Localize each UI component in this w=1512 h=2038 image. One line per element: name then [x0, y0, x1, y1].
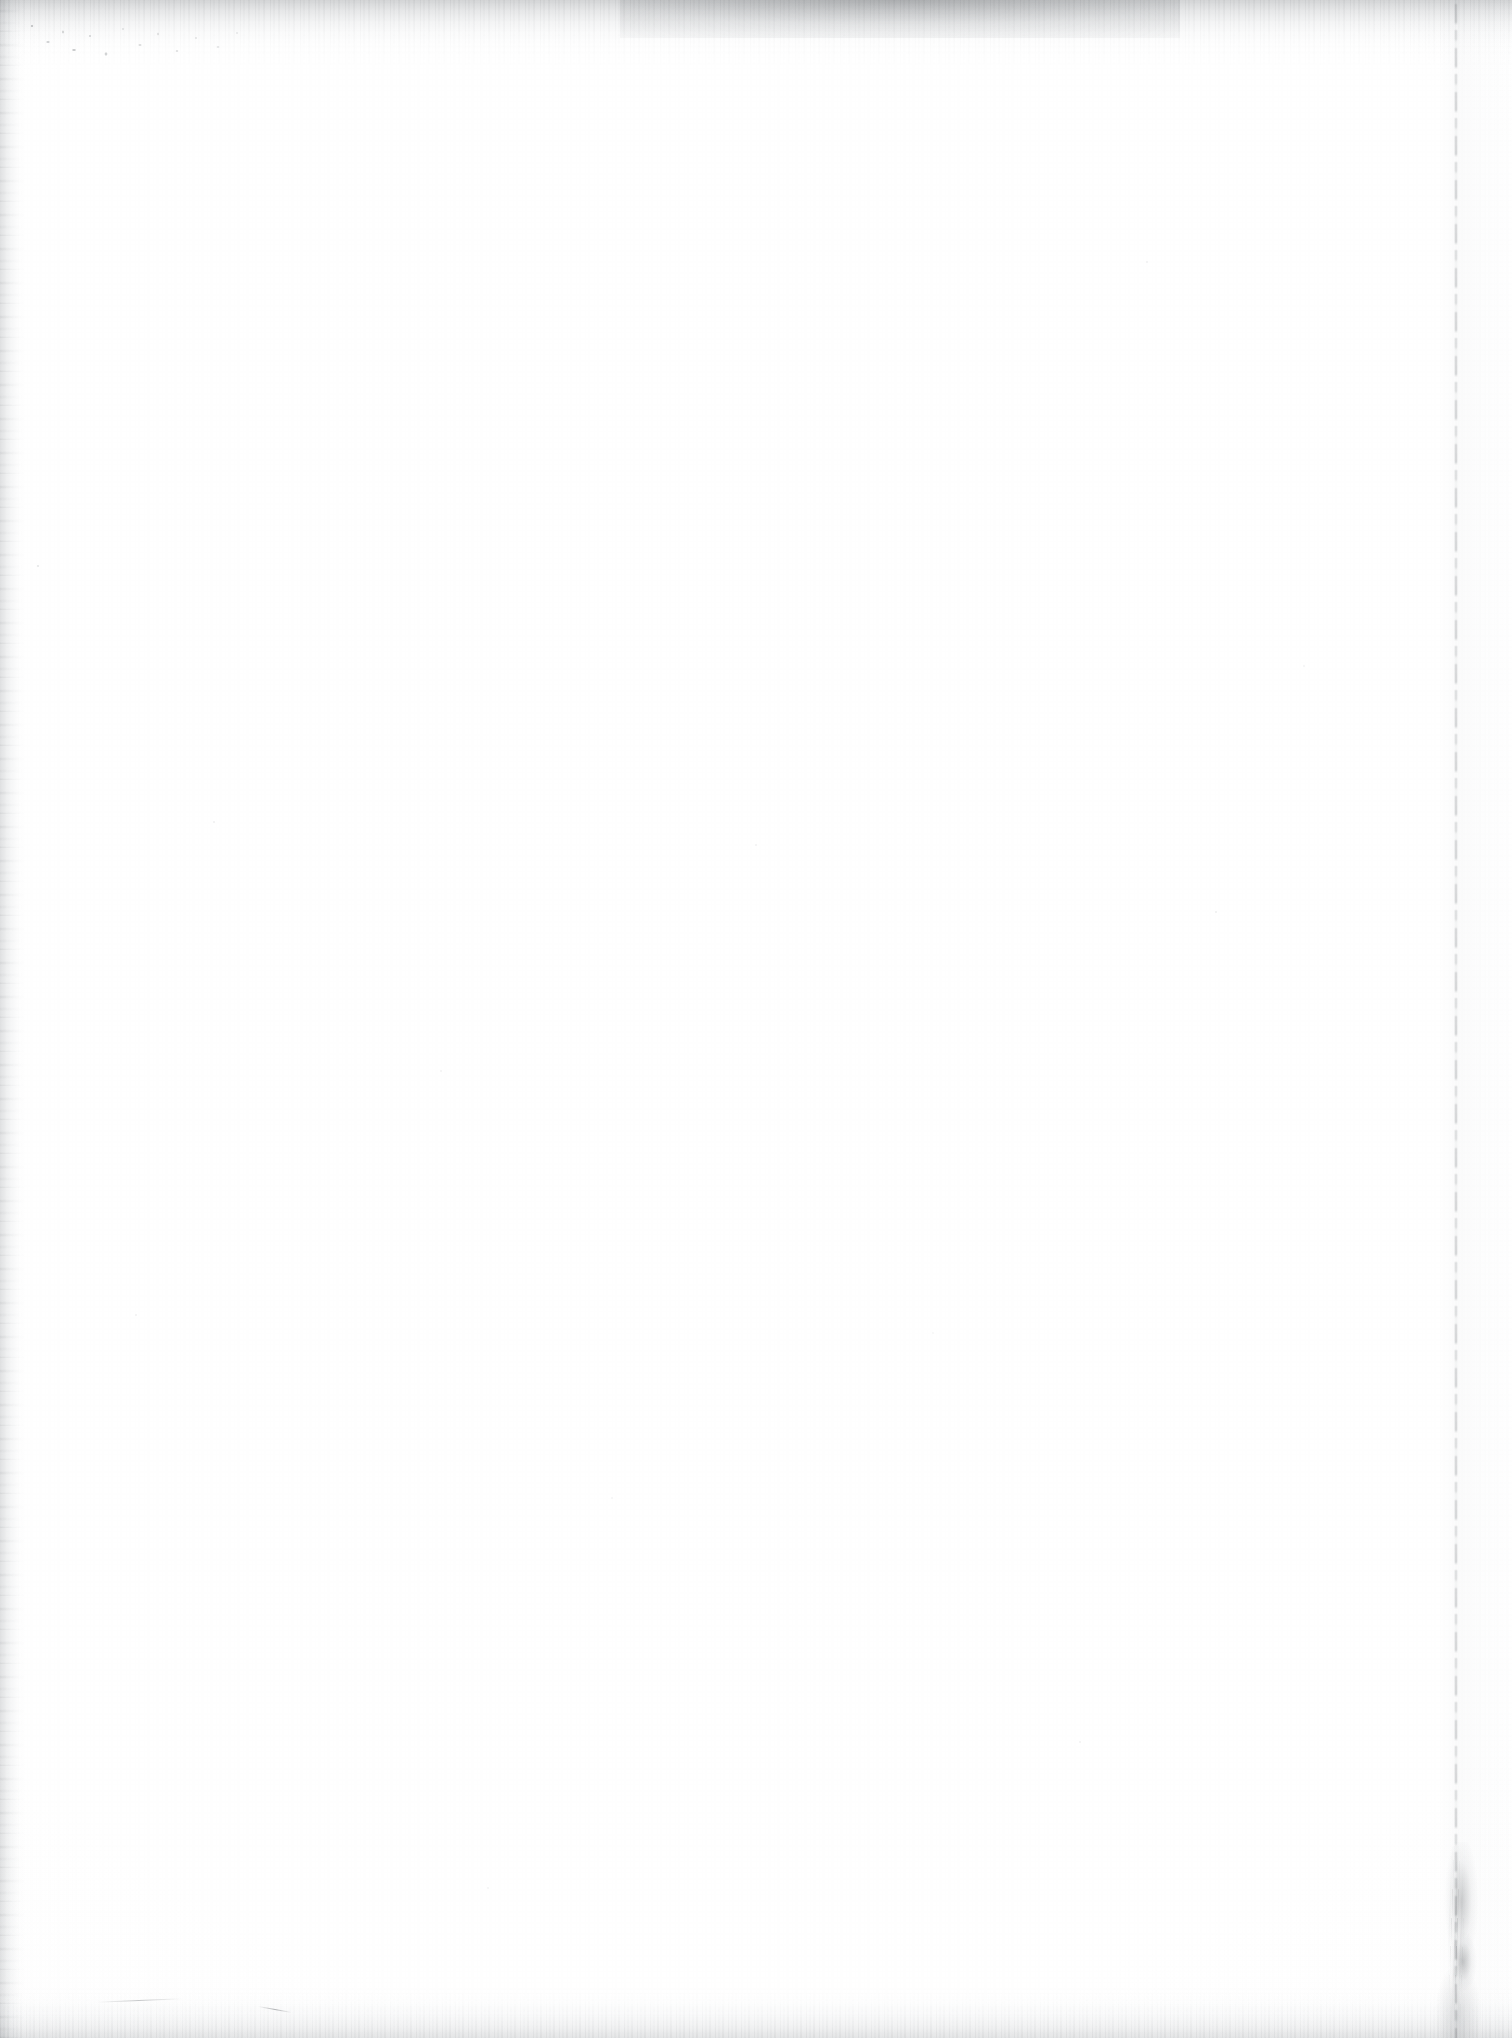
scattered-dust	[0, 0, 1512, 2038]
page-edge-rule	[1454, 0, 1458, 2038]
page-edge-halo	[1440, 0, 1512, 2038]
top-edge-streaks	[0, 0, 1512, 66]
left-edge-streaks	[0, 0, 24, 2038]
top-edge-shadow	[0, 0, 1512, 56]
bottom-edge-streaks	[0, 1992, 1512, 2038]
scuff-hairline-right	[258, 2006, 292, 2013]
fold-crease-streaks	[1448, 1846, 1464, 2036]
top-edge-dark-patch	[620, 0, 1180, 38]
scanned-page	[0, 0, 1512, 2038]
left-edge-shadow	[0, 0, 26, 2038]
dust-speckle-cluster	[22, 14, 252, 76]
paper-background	[0, 0, 1512, 2038]
paper-grain-texture	[0, 0, 1512, 2038]
bottom-edge-shadow	[0, 1986, 1512, 2038]
scuff-hairline-left	[96, 1998, 182, 2003]
fold-crease	[1424, 1842, 1502, 2038]
